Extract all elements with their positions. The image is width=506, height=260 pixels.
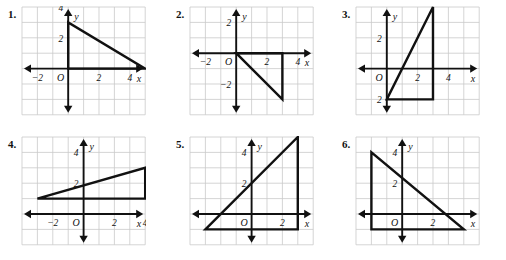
problem-number-3: 3.	[342, 6, 350, 20]
y-tick-label-2-1: 2	[227, 18, 232, 28]
problem-number-6: 6.	[342, 136, 350, 150]
y-tick-label-1-1: 4	[59, 6, 64, 13]
axes-4	[24, 139, 143, 243]
problem-6: 6.xyO224	[342, 136, 480, 246]
x-tick-label-1-0: −2	[32, 73, 43, 83]
x-tick-label-1-2: 4	[128, 73, 133, 83]
origin-label-3: O	[376, 72, 383, 83]
x-tick-label-1-1: 2	[97, 73, 102, 83]
y-tick-label-4-1: 4	[74, 148, 79, 158]
problem-2: 2.xyO−224−22	[176, 6, 314, 116]
origin-label-6: O	[391, 217, 398, 228]
x-axis-label-2: x	[304, 57, 310, 68]
problem-3: 3.xyO2422	[342, 6, 480, 116]
x-axis-label-6: x	[470, 218, 476, 229]
y-tick-label-6-1: 4	[393, 148, 398, 158]
worksheet-sheet: 1.xyO−224242.xyO−224−223.xyO24224.xyO−22…	[0, 0, 506, 260]
problem-5: 5.xyO224	[176, 136, 314, 246]
coordinate-grid-5: xyO224	[189, 136, 314, 246]
y-tick-label-3-1: 2	[377, 34, 382, 44]
y-tick-label-1-0: 2	[59, 34, 64, 44]
grid-lines-1	[22, 7, 145, 115]
y-tick-label-6-0: 2	[393, 179, 398, 189]
coordinate-grid-3: xyO2422	[355, 6, 480, 116]
x-tick-label-4-2: 4	[143, 218, 146, 228]
x-tick-label-3-0: 2	[415, 73, 420, 83]
problem-number-5: 5.	[176, 136, 184, 150]
x-tick-label-4-1: 2	[112, 218, 117, 228]
y-tick-label-3-0: 2	[377, 95, 382, 105]
coordinate-grid-1: xyO−22424	[21, 6, 146, 116]
x-tick-label-2-0: −2	[200, 57, 211, 67]
problem-number-2: 2.	[176, 6, 184, 20]
y-axis-label-1: y	[73, 11, 79, 22]
origin-label-1: O	[57, 72, 64, 83]
origin-label-4: O	[73, 217, 80, 228]
x-axis-label-5: x	[304, 218, 310, 229]
y-axis-label-3: y	[392, 11, 398, 22]
y-axis-label-2: y	[241, 11, 247, 22]
x-axis-label-1: x	[136, 73, 142, 84]
x-tick-label-2-2: 4	[296, 57, 301, 67]
x-axis-label-3: x	[470, 73, 476, 84]
problem-number-1: 1.	[8, 6, 16, 20]
origin-label-5: O	[241, 217, 248, 228]
x-tick-label-3-1: 4	[446, 73, 451, 83]
axes-5	[192, 139, 311, 243]
y-tick-label-5-1: 4	[242, 148, 247, 158]
x-tick-label-6-0: 2	[431, 218, 436, 228]
x-tick-label-2-1: 2	[265, 57, 270, 67]
y-axis-label-6: y	[407, 141, 413, 152]
problem-number-4: 4.	[8, 136, 16, 150]
coordinate-grid-6: xyO224	[355, 136, 480, 246]
triangle-figure-1	[68, 22, 145, 68]
y-axis-label-4: y	[89, 141, 95, 152]
x-tick-label-5-0: 2	[280, 218, 285, 228]
x-tick-label-4-0: −2	[47, 218, 58, 228]
problem-1: 1.xyO−22424	[8, 6, 146, 116]
problem-4: 4.xyO−22424	[8, 136, 146, 246]
x-axis-label-4: x	[136, 218, 142, 229]
y-tick-label-2-0: −2	[220, 80, 231, 90]
coordinate-grid-4: xyO−22424	[21, 136, 146, 246]
origin-label-2: O	[225, 56, 232, 67]
y-axis-label-5: y	[257, 141, 263, 152]
triangle-figure-2	[236, 53, 282, 99]
coordinate-grid-2: xyO−224−22	[189, 6, 314, 116]
